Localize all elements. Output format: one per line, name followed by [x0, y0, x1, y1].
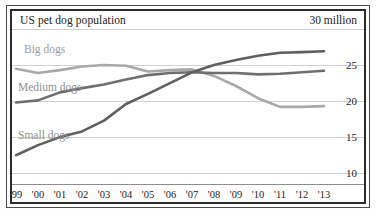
x-tick-label-02: '02	[76, 189, 88, 200]
x-tick-label-13: '13	[318, 189, 330, 200]
x-tick-label-05: '05	[142, 189, 154, 200]
x-axis: '99'00'01'02'03'04'05'06'07'08'09'10'11'…	[12, 184, 364, 202]
x-tick-label-00: '00	[32, 189, 44, 200]
series-label-medium-dogs: Medium dogs	[18, 81, 82, 94]
x-tick-label-12: '12	[296, 189, 308, 200]
x-tick-label-99: '99	[10, 189, 22, 200]
plot-area: US pet dog population 30 million 2520151…	[12, 11, 364, 202]
x-tick-label-07: '07	[186, 189, 198, 200]
chart-page: US pet dog population 30 million 2520151…	[0, 0, 377, 215]
x-tick-label-03: '03	[98, 189, 110, 200]
series-label-small-dogs: Small dogs	[18, 129, 69, 142]
x-tick-label-10: '10	[252, 189, 264, 200]
x-tick-label-06: '06	[164, 189, 176, 200]
series-lines	[12, 11, 364, 202]
x-tick-label-08: '08	[208, 189, 220, 200]
x-tick-label-01: '01	[54, 189, 66, 200]
x-tick-label-09: '09	[230, 189, 242, 200]
x-tick-label-04: '04	[120, 189, 132, 200]
series-label-big-dogs: Big dogs	[24, 43, 65, 56]
x-tick-label-11: '11	[274, 189, 286, 200]
x-axis-rule	[12, 184, 364, 185]
